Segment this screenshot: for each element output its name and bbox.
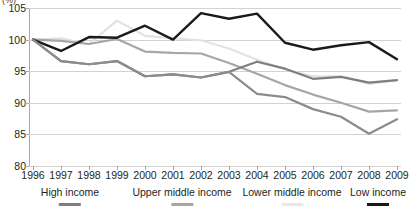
y-axis-tick-labels: 80859095100105 xyxy=(0,8,26,166)
legend-swatch-icon xyxy=(59,203,81,206)
x-tick-label: 1997 xyxy=(49,169,72,181)
legend-label: High income xyxy=(41,186,99,199)
series-line-overlay xyxy=(33,40,397,134)
series-line-low-income xyxy=(33,13,397,59)
x-tick-label: 2000 xyxy=(133,169,156,181)
y-tick-label: 95 xyxy=(2,66,26,77)
x-tick-label: 2005 xyxy=(273,169,296,181)
x-tick-label: 1999 xyxy=(105,169,128,181)
x-tick-label: 2004 xyxy=(245,169,268,181)
series-lines xyxy=(29,8,401,166)
gridline xyxy=(29,166,401,167)
x-tick-label: 1996 xyxy=(21,169,44,181)
x-tick-label: 2006 xyxy=(301,169,324,181)
x-tick-label: 2002 xyxy=(189,169,212,181)
legend-label: Low income xyxy=(350,186,406,199)
legend-swatch-icon xyxy=(171,203,193,206)
legend-item-lower-middle-income[interactable]: Lower middle income xyxy=(242,186,341,206)
plot-area xyxy=(29,8,401,166)
x-tick-label: 2008 xyxy=(357,169,380,181)
legend-label: Upper middle income xyxy=(132,186,231,199)
x-tick-label: 2003 xyxy=(217,169,240,181)
x-tick-label: 2009 xyxy=(385,169,408,181)
y-tick-label: 90 xyxy=(2,98,26,109)
legend-item-high-income[interactable]: High income xyxy=(41,186,99,206)
y-tick-label: 85 xyxy=(2,129,26,140)
y-tick-mark xyxy=(25,166,29,167)
x-tick-label: 1998 xyxy=(77,169,100,181)
y-tick-label: 100 xyxy=(2,35,26,46)
x-tick-label: 2007 xyxy=(329,169,352,181)
legend-item-low-income[interactable]: Low income xyxy=(350,186,406,206)
y-tick-label: 105 xyxy=(2,3,26,14)
legend-label: Lower middle income xyxy=(242,186,341,199)
x-tick-label: 2001 xyxy=(161,169,184,181)
x-axis-tick-labels: 1996199719981999200020012002200320042005… xyxy=(29,169,401,183)
legend-swatch-icon xyxy=(367,203,389,206)
legend-item-upper-middle-income[interactable]: Upper middle income xyxy=(132,186,231,206)
legend-swatch-icon xyxy=(281,203,303,206)
chart-legend: High incomeUpper middle incomeLower midd… xyxy=(0,186,405,214)
